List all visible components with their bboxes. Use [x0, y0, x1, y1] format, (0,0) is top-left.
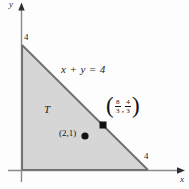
x-numerator: 8 — [115, 99, 121, 107]
x-coordinate-fraction: 8 3 — [114, 99, 121, 115]
y-axis-arrow-icon — [18, 3, 24, 11]
y-axis-tick-label-4: 4 — [24, 33, 29, 42]
x-axis-arrow-icon — [177, 167, 185, 173]
boundary-point-marker — [100, 122, 107, 129]
open-paren: ( — [106, 96, 114, 116]
y-axis-label: y — [9, 0, 13, 9]
math-figure: y x 4 4 x + y = 4 T (2,1) ( 8 3 , 4 3 ) — [0, 0, 189, 189]
coordinate-pair: 8 3 , 4 3 — [114, 99, 132, 115]
coordinate-comma: , — [121, 105, 124, 114]
region-label-t: T — [44, 104, 50, 115]
interior-point-marker — [81, 132, 88, 139]
interior-point-label: (2,1) — [59, 129, 76, 138]
boundary-point-label: ( 8 3 , 4 3 ) — [106, 97, 140, 117]
y-numerator: 4 — [125, 99, 131, 107]
x-denominator: 3 — [115, 107, 121, 115]
figure-canvas — [0, 0, 189, 189]
line-equation-label: x + y = 4 — [61, 64, 106, 75]
y-coordinate-fraction: 4 3 — [124, 99, 131, 115]
y-denominator: 3 — [125, 107, 131, 115]
close-paren: ) — [132, 96, 140, 116]
x-axis-label: x — [180, 175, 184, 184]
x-axis-tick-label-4: 4 — [144, 152, 149, 161]
